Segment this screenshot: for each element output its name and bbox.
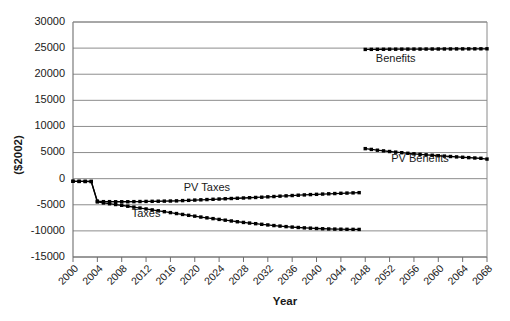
y-axis-tick-label: 5000 [41,145,65,157]
data-point-marker [333,227,336,230]
data-point-marker [339,228,342,231]
data-point-marker [357,228,360,231]
data-point-marker [479,157,482,160]
x-axis-ticks: 2000200420082012201620202024202820322036… [55,257,494,287]
data-point-marker [224,197,227,200]
x-axis-tick-label: 2020 [177,262,202,287]
data-point-marker [370,148,373,151]
data-point-marker [242,196,245,199]
data-point-marker [138,200,141,203]
x-axis-tick-label: 2028 [226,262,251,287]
data-point-marker [254,196,257,199]
data-point-marker [364,48,367,51]
data-point-marker [321,227,324,230]
data-point-marker [351,191,354,194]
x-axis-tick-label: 2064 [445,262,470,287]
data-point-marker [248,196,251,199]
data-point-marker [205,198,208,201]
data-point-marker [150,200,153,203]
data-point-marker [315,227,318,230]
data-point-marker [284,225,287,228]
data-point-marker [199,198,202,201]
y-axis-tick-label: 10000 [34,119,65,131]
data-point-marker [230,219,233,222]
x-axis-title: Year [273,295,298,307]
data-point-marker [254,222,257,225]
data-point-marker [303,193,306,196]
data-point-marker [126,200,129,203]
data-point-marker [248,221,251,224]
data-point-marker [297,194,300,197]
x-axis-tick-label: 2012 [128,262,153,287]
data-point-marker [467,156,470,159]
data-point-marker [461,47,464,50]
data-point-marker [394,47,397,50]
data-point-marker [412,47,415,50]
data-point-marker [224,218,227,221]
data-point-marker [266,223,269,226]
data-point-marker [443,47,446,50]
y-axis-tick-label: -5000 [37,198,65,210]
data-point-marker [242,221,245,224]
x-axis-tick-label: 2004 [80,262,105,287]
data-point-marker [406,47,409,50]
data-point-marker [163,199,166,202]
data-point-marker [449,47,452,50]
x-axis-tick-label: 2056 [396,262,421,287]
data-point-marker [473,47,476,50]
x-axis-tick-label: 2040 [299,262,324,287]
y-axis-tick-label: 30000 [34,15,65,27]
data-point-marker [108,202,111,205]
data-point-marker [309,193,312,196]
data-point-marker [284,194,287,197]
data-point-marker [77,180,80,183]
data-point-marker [71,180,74,183]
data-point-marker [272,195,275,198]
y-axis-tick-label: -15000 [31,250,65,262]
data-point-marker [351,228,354,231]
data-point-marker [193,198,196,201]
y-axis-tick-label: 0 [59,172,65,184]
data-point-marker [327,227,330,230]
data-point-marker [169,211,172,214]
y-axis-tick-label: 20000 [34,67,65,79]
x-axis-tick-label: 2060 [421,262,446,287]
data-point-marker [485,47,488,50]
data-point-marker [455,47,458,50]
data-point-marker [217,218,220,221]
x-axis-tick-label: 2044 [323,262,348,287]
data-point-marker [309,226,312,229]
data-point-marker [187,214,190,217]
data-point-marker [217,197,220,200]
data-point-marker [364,147,367,150]
data-point-marker [157,200,160,203]
data-point-marker [120,204,123,207]
data-point-marker [424,47,427,50]
data-point-marker [126,205,129,208]
data-point-marker [418,47,421,50]
data-point-marker [199,215,202,218]
series-label-pv-benefits: PV Benefits [391,152,449,164]
data-point-marker [455,155,458,158]
data-point-marker [303,226,306,229]
y-axis-tick-label: 15000 [34,93,65,105]
data-point-marker [187,199,190,202]
chart-container: 300002500020000150001000050000-5000-1000… [0,0,510,321]
line-chart: 300002500020000150001000050000-5000-1000… [0,0,510,321]
x-axis-tick-label: 2032 [250,262,275,287]
data-point-marker [260,196,263,199]
data-point-marker [467,47,470,50]
y-axis-tick-label: 25000 [34,41,65,53]
y-axis-title: ($2002) [12,135,24,175]
x-axis-tick-label: 2048 [348,262,373,287]
data-point-marker [333,192,336,195]
data-point-marker [431,47,434,50]
data-point-marker [90,180,93,183]
series-label-taxes: Taxes [132,207,161,219]
x-axis-tick-label: 2068 [469,262,494,287]
data-point-marker [278,224,281,227]
data-point-marker [382,48,385,51]
data-point-marker [345,228,348,231]
data-point-marker [236,197,239,200]
data-point-marker [144,200,147,203]
